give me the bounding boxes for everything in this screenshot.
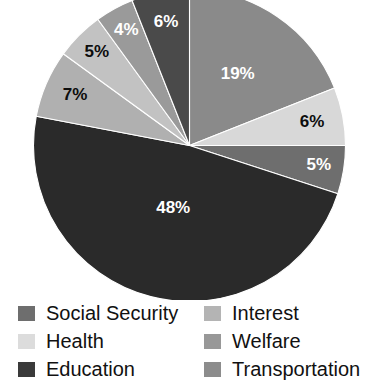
legend-item[interactable]: Welfare	[204, 327, 379, 355]
legend-swatch	[18, 334, 35, 349]
legend-item-label: Transportation	[232, 359, 360, 379]
legend-item[interactable]: Health	[18, 327, 208, 355]
legend-item-label: Welfare	[232, 331, 301, 351]
legend-item-label: Health	[46, 331, 104, 351]
legend-column-right: InterestWelfareTransportation	[204, 299, 379, 383]
pie-chart-svg: 19%6%5%48%7%5%4%6%	[0, 0, 379, 300]
legend-item[interactable]: Transportation	[204, 355, 379, 383]
pie-slice-label: 4%	[114, 20, 139, 39]
pie-slice-group	[33, 0, 345, 300]
legend-item-label: Education	[46, 359, 135, 379]
pie-slice-label: 48%	[156, 198, 190, 217]
legend-swatch	[18, 306, 35, 321]
pie-slice-label: 6%	[300, 112, 325, 131]
legend-column-left: Social SecurityHealthEducation	[18, 299, 208, 383]
legend-item[interactable]: Social Security	[18, 299, 208, 327]
legend-swatch	[18, 362, 35, 377]
legend-item-label: Social Security	[46, 303, 178, 323]
pie-chart-figure: 19%6%5%48%7%5%4%6% Social SecurityHealth…	[0, 0, 379, 384]
legend-item-label: Interest	[232, 303, 299, 323]
pie-slice-label: 6%	[154, 12, 179, 31]
legend-swatch	[204, 362, 221, 377]
legend-swatch	[204, 334, 221, 349]
chart-legend: Social SecurityHealthEducation InterestW…	[0, 299, 379, 384]
legend-item[interactable]: Education	[18, 355, 208, 383]
pie-slice-label: 5%	[85, 42, 110, 61]
pie-slice-label: 19%	[221, 64, 255, 83]
pie-slice-label: 5%	[307, 155, 332, 174]
legend-swatch	[204, 306, 221, 321]
pie-chart-plot-area: 19%6%5%48%7%5%4%6%	[0, 0, 379, 300]
legend-item[interactable]: Interest	[204, 299, 379, 327]
pie-slice-label: 7%	[63, 85, 88, 104]
